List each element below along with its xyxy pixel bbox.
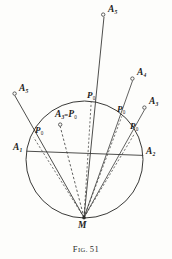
label-P0-top-circle: P0 — [87, 91, 95, 100]
label-A1: A1 — [13, 143, 22, 153]
dashed-helper-ray-4 — [34, 137, 84, 217]
label-A4-right-upper: A4 — [137, 68, 146, 78]
marker-A4-right — [131, 77, 134, 80]
label-P0-right-lower: P0 — [130, 122, 138, 131]
figure-caption: FIG.51 — [0, 238, 172, 256]
label-M: M — [78, 221, 86, 231]
figure-container: A5 A4 A3 A5 A1 A2 A3=P0 P0 P0 P0 P0 M FI… — [0, 0, 172, 259]
label-A5-top: A5 — [108, 5, 117, 15]
caption-number: 51 — [90, 244, 99, 254]
marker-A3-right — [143, 106, 146, 109]
label-A3-right-lower: A3 — [149, 97, 158, 107]
label-A5-left-upper: A5 — [19, 84, 28, 94]
ray-M-to-A3-eq-P0-dashed — [60, 127, 84, 218]
caption-word: FIG. — [73, 244, 88, 254]
label-A2: A2 — [146, 147, 155, 157]
label-A3-equals-P0: A3=P0 — [55, 110, 77, 120]
label-P0-left: P0 — [35, 126, 43, 135]
marker-M — [83, 216, 86, 219]
marker-A3-eq-P0 — [59, 123, 62, 126]
marker-A5-left — [13, 92, 16, 95]
marker-A5-top — [102, 13, 105, 16]
label-P0-right-upper: P0 — [117, 105, 125, 114]
main-circle — [26, 101, 143, 218]
